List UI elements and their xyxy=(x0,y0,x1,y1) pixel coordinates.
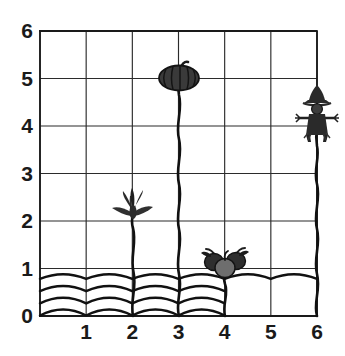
y-tick-label: 6 xyxy=(21,19,33,42)
x-tick-label: 2 xyxy=(126,320,138,343)
y-tick-label: 3 xyxy=(21,162,33,185)
y-tick-label: 0 xyxy=(21,304,33,327)
y-tick-label: 1 xyxy=(21,257,33,280)
x-tick-label: 1 xyxy=(80,320,92,343)
y-tick-label: 5 xyxy=(21,67,33,90)
y-tick-label: 4 xyxy=(21,114,33,137)
x-tick-label: 4 xyxy=(219,320,231,343)
x-tick-label: 3 xyxy=(173,320,185,343)
y-tick-label: 2 xyxy=(21,209,33,232)
chart-background xyxy=(0,0,345,356)
x-tick-label: 6 xyxy=(311,320,323,343)
x-tick-label: 5 xyxy=(265,320,277,343)
plot-area: 123456 0123456 xyxy=(0,0,345,356)
coordinate-grid-chart: 123456 0123456 xyxy=(0,0,345,356)
